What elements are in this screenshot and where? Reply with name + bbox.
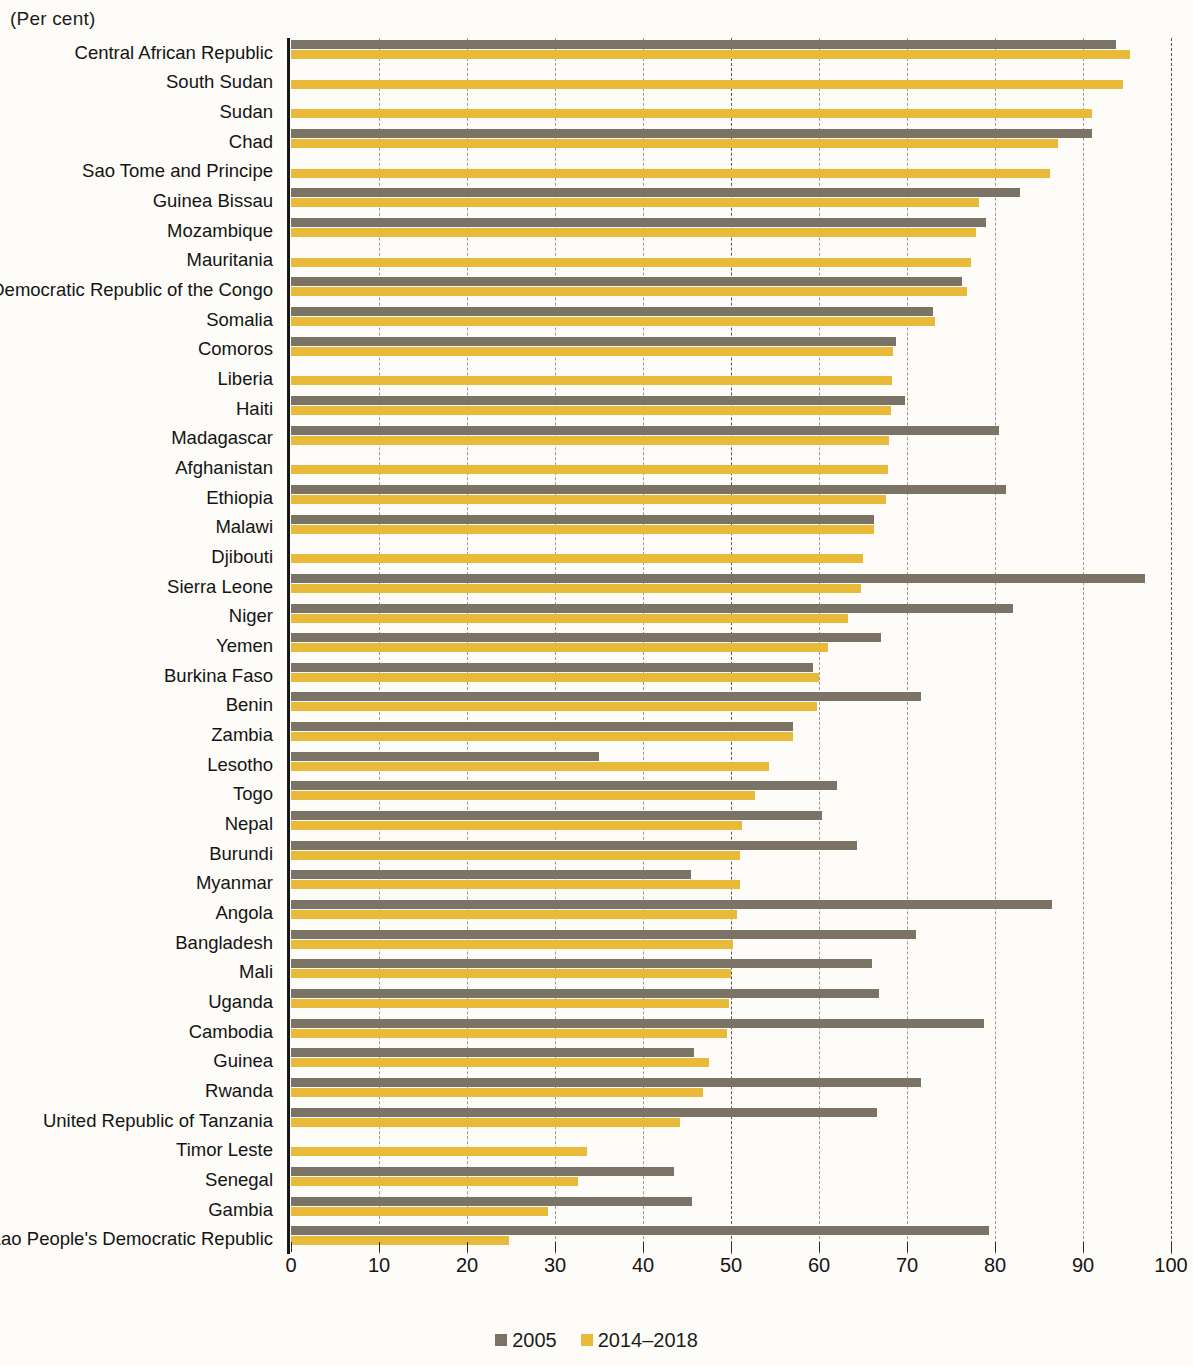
bar-row [291,779,1171,812]
category-label: Mauritania [187,251,273,270]
bar-recent [291,940,733,949]
bar-row [291,839,1171,872]
bar-recent [291,1147,587,1156]
category-label: Sudan [220,103,274,122]
bar-2005 [291,1078,921,1087]
gridline-100 [1171,38,1173,1254]
category-label: Benin [226,696,273,715]
bar-row [291,97,1171,130]
bar-row [291,453,1171,486]
category-label: Senegal [205,1171,273,1190]
x-tick-mark [467,1242,468,1252]
category-label: Burundi [209,845,273,864]
bar-recent [291,880,740,889]
category-label: Lesotho [207,756,273,775]
category-label: United Republic of Tanzania [43,1112,273,1131]
bar-recent [291,465,888,474]
x-tick-label: 30 [544,1254,566,1277]
category-label: Niger [229,607,273,626]
bar-row [291,690,1171,723]
category-label: Somalia [206,311,273,330]
x-axis: 0102030405060708090100 [0,1254,1193,1288]
x-tick-mark [379,1242,380,1252]
bar-recent [291,702,817,711]
bar-2005 [291,959,872,968]
bar-row [291,661,1171,694]
x-tick-mark [907,1242,908,1252]
legend-swatch-icon [581,1334,593,1346]
bar-row [291,186,1171,219]
bar-row [291,572,1171,605]
bar-recent [291,910,737,919]
bar-row [291,987,1171,1020]
category-label: Djibouti [211,548,273,567]
bar-row [291,335,1171,368]
category-label: Chad [229,133,273,152]
category-label: Gambia [208,1201,273,1220]
bar-2005 [291,1197,692,1206]
bar-recent [291,258,971,267]
bar-2005 [291,515,874,524]
bar-2005 [291,633,881,642]
bar-recent [291,851,740,860]
bar-recent [291,643,828,652]
legend-label: 2005 [512,1330,557,1350]
bar-recent [291,554,863,563]
bar-recent [291,139,1058,148]
category-label: Ethiopia [206,489,273,508]
bar-recent [291,287,967,296]
category-label: Mozambique [167,222,273,241]
category-label: Guinea [213,1052,273,1071]
bar-row [291,157,1171,190]
chart-legend: 20052014–2018 [0,1330,1193,1350]
category-label: Bangladesh [175,934,273,953]
category-label: Angola [215,904,273,923]
bar-2005 [291,1226,989,1235]
category-label: Sierra Leone [167,578,273,597]
bar-recent [291,1088,703,1097]
bar-row [291,1017,1171,1050]
x-tick-mark [555,1242,556,1252]
category-label: Myanmar [196,874,273,893]
x-tick-label: 100 [1154,1254,1187,1277]
category-label: Malawi [215,518,273,537]
unit-label: (Per cent) [10,8,95,30]
bar-2005 [291,188,1020,197]
bar-2005 [291,218,986,227]
legend-item[interactable]: 2014–2018 [581,1330,698,1350]
bar-row [291,750,1171,783]
bar-row [291,809,1171,842]
bar-recent [291,50,1130,59]
bar-row [291,898,1171,931]
category-label: Cambodia [189,1023,273,1042]
bar-2005 [291,277,962,286]
category-label: Afghanistan [175,459,273,478]
bar-recent [291,732,793,741]
bar-recent [291,495,886,504]
x-tick-mark [291,1242,292,1252]
bar-row [291,1165,1171,1198]
bar-recent [291,762,769,771]
bar-2005 [291,1167,674,1176]
bar-2005 [291,574,1145,583]
bar-row [291,1106,1171,1139]
bar-row [291,928,1171,961]
bar-recent [291,614,848,623]
bar-recent [291,999,729,1008]
bar-row [291,38,1171,71]
bar-2005 [291,426,999,435]
legend-item[interactable]: 2005 [495,1330,557,1350]
category-label: Guinea Bissau [153,192,273,211]
bar-recent [291,198,979,207]
category-label: Comoros [198,340,273,359]
bar-2005 [291,1019,984,1028]
bar-row [291,602,1171,635]
bar-row [291,1046,1171,1079]
x-tick-label: 80 [984,1254,1006,1277]
bar-row [291,275,1171,308]
legend-label: 2014–2018 [598,1330,698,1350]
category-label: Democratic Republic of the Congo [0,281,273,300]
bar-2005 [291,870,691,879]
chart-plot-wrapper: Central African RepublicSouth SudanSudan… [0,38,1193,1254]
x-tick-label: 50 [720,1254,742,1277]
